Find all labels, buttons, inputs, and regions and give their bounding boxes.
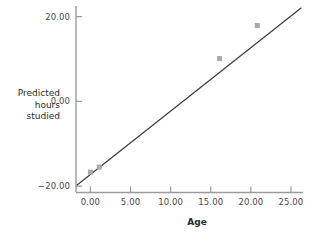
regression-line	[77, 8, 302, 186]
y-axis-ticks	[76, 17, 82, 187]
y-axis-title: Predictedhoursstudied	[2, 88, 60, 123]
data-point-marker	[97, 165, 102, 170]
data-point-marker	[88, 170, 93, 175]
y-tick-label: −20.00	[12, 181, 70, 191]
x-axis-ticks	[90, 187, 291, 193]
x-tick-label: 0.00	[81, 197, 100, 207]
x-axis-title: Age	[187, 217, 207, 227]
regression-line-path	[77, 8, 302, 186]
y-axis-title-line: hours	[2, 100, 60, 112]
y-axis-title-line: Predicted	[2, 88, 60, 100]
x-tick-label: 10.00	[158, 197, 183, 207]
x-tick-label: 5.00	[121, 197, 140, 207]
data-point-marker	[255, 23, 260, 28]
y-axis-title-line: studied	[2, 111, 60, 123]
chart-container: −20.000.0020.00 0.005.0010.0015.0020.002…	[0, 0, 314, 235]
data-point-markers	[88, 23, 260, 175]
x-tick-label: 20.00	[238, 197, 263, 207]
data-point-marker	[217, 56, 222, 61]
x-tick-label: 25.00	[279, 197, 304, 207]
y-tick-label: 20.00	[12, 12, 70, 22]
x-tick-label: 15.00	[198, 197, 223, 207]
